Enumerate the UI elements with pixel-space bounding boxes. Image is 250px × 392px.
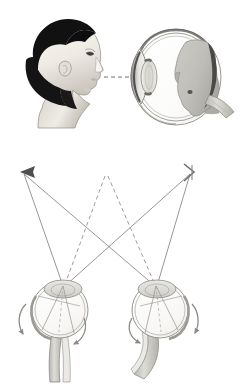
- ray-solid-righttip-lefteye: [65, 174, 190, 286]
- cornea-right: [138, 280, 176, 298]
- eyeball-top-view-right: [129, 280, 198, 379]
- retinal-eye-mark: [187, 90, 192, 94]
- eyeball-cross-section: [131, 29, 234, 125]
- ray-dashed-center-lefteye: [64, 176, 105, 287]
- figure-root: Image formation and binocular convergenc…: [0, 0, 250, 392]
- rotation-arrow-left-eye: [19, 304, 26, 334]
- panel-binocular-convergence: [19, 164, 198, 382]
- eyeball-top-view-left: [19, 280, 88, 382]
- head-profile-left: [26, 19, 103, 128]
- rotation-arrow-right-eye-outer: [192, 304, 198, 333]
- arrowhead-left: [20, 166, 35, 178]
- convergence-rays: [24, 174, 190, 287]
- ray-solid-righttip-righteye: [157, 174, 190, 286]
- object-double-headed-arrow: [20, 164, 194, 181]
- panel-monocular-image-formation: [26, 19, 234, 128]
- ray-dashed-center-righteye: [108, 176, 156, 287]
- ear: [59, 61, 71, 76]
- figure-canvas: [0, 0, 250, 392]
